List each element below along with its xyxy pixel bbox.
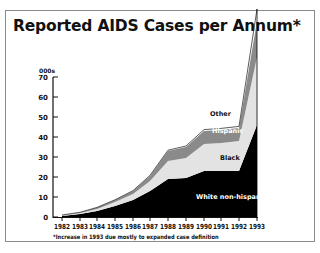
- svg-text:1983: 1983: [72, 223, 88, 231]
- svg-text:1982: 1982: [54, 223, 70, 231]
- chart-plot: 000s 0 10 20 30 40 50 60 70 1982 1983 19…: [0, 0, 320, 253]
- y-tick-label: 20: [38, 174, 48, 182]
- svg-text:1986: 1986: [125, 223, 141, 231]
- series-label-other: Other: [210, 110, 232, 118]
- footnote: *Increase in 1993 due mostly to expanded…: [53, 233, 219, 240]
- svg-text:1990: 1990: [196, 223, 212, 231]
- y-tick-label: 10: [38, 194, 48, 202]
- series-label-white-non-hispanic: White non-hispanic: [196, 193, 267, 201]
- y-tick-label: 0: [43, 214, 48, 222]
- y-tick-label: 50: [38, 114, 48, 122]
- series-label-black: Black: [220, 154, 240, 162]
- svg-text:1987: 1987: [142, 223, 158, 231]
- svg-text:1984: 1984: [89, 223, 105, 231]
- svg-text:1993: 1993: [249, 223, 265, 231]
- y-tick-label: 60: [38, 94, 48, 102]
- x-tick-labels: 1982 1983 1984 1985 1986 1987 1988 1989 …: [54, 223, 265, 231]
- y-tick-label: 70: [38, 74, 48, 82]
- svg-text:1991: 1991: [213, 223, 229, 231]
- svg-text:1992: 1992: [231, 223, 247, 231]
- svg-text:1985: 1985: [107, 223, 123, 231]
- y-tick-label: 40: [38, 134, 48, 142]
- svg-text:1989: 1989: [178, 223, 194, 231]
- svg-text:1988: 1988: [160, 223, 176, 231]
- series-label-hispanic: Hispanic: [212, 127, 243, 135]
- y-tick-label: 30: [38, 154, 48, 162]
- y-ticks: [53, 77, 58, 217]
